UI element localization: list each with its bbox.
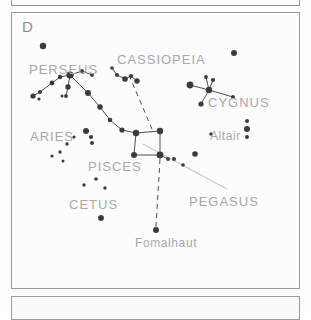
star-square-ne	[157, 128, 163, 134]
star-square-se	[157, 152, 164, 159]
star-cetus-t4	[98, 215, 104, 221]
star-fomalhaut	[153, 227, 159, 233]
star-cassiopeia-c4	[129, 74, 133, 78]
star-cygnus-top	[204, 75, 208, 79]
sq-nw-ne	[136, 131, 160, 133]
star-andromeda-a4	[119, 127, 124, 132]
sq-sw-nw	[134, 133, 136, 155]
star-pegasus-p1	[166, 157, 170, 161]
star-perseus-s3	[61, 95, 64, 98]
star-andromeda-a3	[108, 118, 113, 123]
star-pisces-f3	[58, 150, 61, 153]
square-to-fomalhaut	[156, 159, 160, 227]
star-altair-top	[245, 119, 249, 123]
label-cetus: CETUS	[69, 198, 118, 211]
star-pisces-f4	[50, 154, 53, 157]
star-lone-upper-right	[231, 50, 237, 56]
star-cassiopeia-c5	[134, 78, 139, 83]
star-cetus-t1	[82, 183, 85, 186]
star-perseus-alpha	[40, 43, 46, 49]
label-altair: Altair	[210, 130, 241, 142]
star-aries-a2	[89, 135, 93, 139]
sky-area: PERSEUSCASSIOPEIACYGNUSARIESAltairPISCES…	[12, 13, 299, 288]
cassiopeia-to-square	[129, 75, 152, 129]
label-aries: ARIES	[30, 130, 74, 143]
label-pegasus: PEGASUS	[189, 195, 259, 208]
star-cetus-t2	[94, 177, 98, 181]
star-cetus-t3	[103, 186, 106, 189]
star-altair-bottom	[245, 135, 249, 139]
star-pegasus-p3	[181, 163, 185, 167]
star-perseus-w3	[38, 90, 42, 94]
star-perseus-w4	[30, 93, 35, 98]
star-cassiopeia-c3	[122, 76, 128, 82]
star-cassiopeia-c2	[115, 73, 119, 77]
star-cassiopeia-c1	[110, 66, 114, 70]
star-perseus-s1	[65, 84, 70, 89]
star-altair-main	[244, 126, 250, 132]
star-cygnus-center	[206, 87, 212, 93]
star-perseus-w2	[50, 81, 55, 86]
star-pegasus-p4	[192, 151, 198, 157]
star-cygnus-upper	[211, 78, 215, 82]
star-square-sw	[131, 152, 137, 158]
star-aries-a3	[90, 141, 94, 145]
star-cygnus-bottom	[198, 101, 203, 106]
pegasus-label-leader	[143, 144, 227, 189]
star-perseus-s2	[64, 94, 68, 98]
label-cassiopeia: CASSIOPEIA	[117, 53, 206, 66]
label-fomalhaut: Fomalhaut	[135, 237, 197, 249]
star-andromeda-a2	[97, 104, 103, 110]
label-cygnus: CYGNUS	[208, 96, 270, 109]
star-cygnus-deneb	[187, 82, 194, 89]
label-perseus: PERSEUS	[29, 63, 98, 76]
main-chart-panel: D PERSEUSCASSIOPEIACYGNUSARIESAltairPISC…	[11, 12, 300, 289]
star-square-nw	[133, 130, 139, 136]
label-pisces: PISCES	[88, 160, 142, 173]
star-pegasus-p2	[172, 157, 176, 161]
perseus-hub-and	[70, 75, 88, 93]
upper-panel-partial	[11, 0, 300, 6]
star-perseus-w5	[37, 97, 40, 100]
star-pisces-f5	[62, 160, 65, 163]
star-andromeda-a1	[85, 90, 91, 96]
star-aries-a1	[83, 128, 89, 134]
lower-panel-partial	[11, 296, 300, 320]
